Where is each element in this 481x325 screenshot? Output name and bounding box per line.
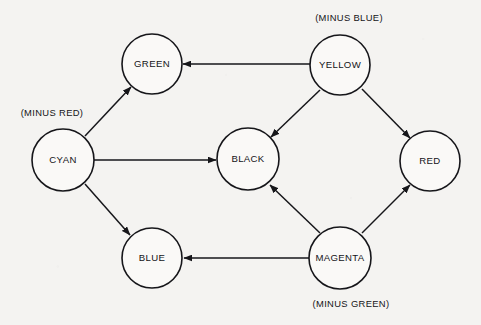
node-magenta: MAGENTA [309,227,371,289]
annotation-minus-blue: (MINUS BLUE) [315,12,383,23]
node-label-magenta: MAGENTA [315,252,364,263]
node-label-red: RED [419,155,440,166]
node-black: BLACK [217,128,279,190]
annotation-minus-green: (MINUS GREEN) [313,298,390,309]
diagram-svg: GREENYELLOWCYANBLACKREDBLUEMAGENTA (MINU… [0,0,481,325]
nodes-layer: GREENYELLOWCYANBLACKREDBLUEMAGENTA [32,34,460,289]
node-cyan: CYAN [32,129,94,191]
node-label-blue: BLUE [139,252,165,263]
arrow-icon [271,90,320,137]
edge-cyan-to-green [85,87,131,136]
edge-yellow-to-red [362,89,410,138]
node-label-black: BLACK [231,153,264,164]
edge-magenta-to-black [270,185,320,233]
edge-yellow-to-black [271,90,320,137]
node-green: GREEN [122,34,182,94]
arrow-icon [85,87,131,136]
node-blue: BLUE [122,228,182,288]
node-yellow: YELLOW [310,35,370,95]
annotation-minus-red: (MINUS RED) [21,107,84,118]
arrow-icon [270,185,320,233]
node-label-yellow: YELLOW [319,59,362,70]
node-red: RED [400,131,460,191]
node-label-cyan: CYAN [49,154,76,165]
diagram-canvas: GREENYELLOWCYANBLACKREDBLUEMAGENTA (MINU… [0,0,481,325]
arrow-icon [362,89,410,138]
edge-cyan-to-blue [85,184,130,235]
edge-magenta-to-red [362,185,410,233]
arrow-icon [362,185,410,233]
node-label-green: GREEN [134,58,170,69]
arrow-icon [85,184,130,235]
